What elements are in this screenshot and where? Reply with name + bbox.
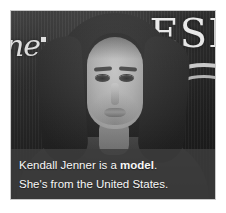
caption-line-1-bold-word: model xyxy=(120,159,154,171)
caption-overlay: Kendall Jenner is a model. She's from th… xyxy=(11,149,215,199)
caption-line-1-suffix: . xyxy=(154,159,157,171)
caption-line-1-prefix: Kendall Jenner is a xyxy=(19,159,120,171)
caption-line-2: She's from the United States. xyxy=(19,175,215,194)
image-caption-card: ne ESI Kendall Jenner is a model. She's … xyxy=(11,11,215,199)
caption-line-1: Kendall Jenner is a model. xyxy=(19,156,215,175)
